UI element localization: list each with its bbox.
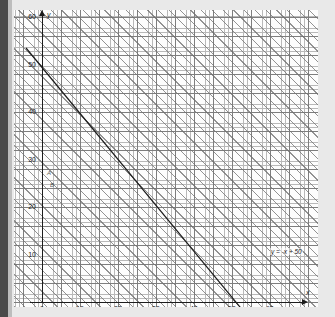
boundary-line-svg xyxy=(14,10,318,307)
line-y-equals-minus-x-plus-50 xyxy=(26,48,254,307)
equation-label: y = -x + 50 xyxy=(270,248,303,255)
left-border-rail xyxy=(0,0,8,317)
graph-plot-area: y x 60 50 40 30 20 10 0 10 20 30 40 50 6… xyxy=(14,10,318,307)
left-border-shade xyxy=(8,0,12,317)
mark-label-a: A xyxy=(47,170,51,176)
figure-root: y x 60 50 40 30 20 10 0 10 20 30 40 50 6… xyxy=(0,0,335,317)
mark-label-b: B xyxy=(50,182,54,188)
